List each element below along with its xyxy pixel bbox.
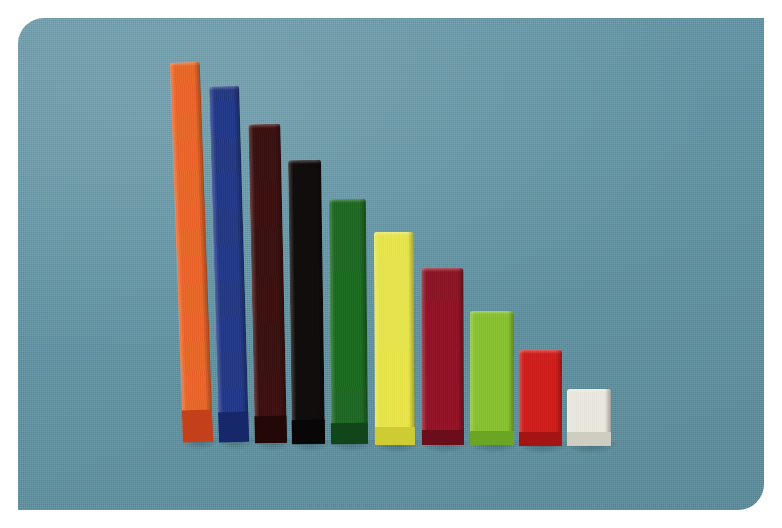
- dark-green-rod: [329, 199, 368, 444]
- rod-face: [421, 268, 464, 445]
- rod-face: [248, 124, 287, 444]
- brown-rod: [248, 124, 287, 444]
- photo-print-surface: [18, 18, 764, 510]
- cuisenaire-rods-group: [18, 18, 764, 510]
- rod-face: [374, 232, 415, 445]
- dark-red-rod: [421, 268, 464, 445]
- photograph-frame: [0, 0, 782, 528]
- rod-face: [209, 86, 249, 443]
- rod-face: [519, 350, 562, 446]
- black-rod: [288, 160, 325, 444]
- red-rod: [519, 350, 562, 446]
- rod-face: [329, 199, 368, 444]
- yellow-rod: [374, 232, 415, 445]
- light-green-rod: [470, 311, 514, 445]
- rod-face: [567, 389, 611, 446]
- rod-face: [288, 160, 325, 444]
- blue-rod: [209, 86, 249, 443]
- rod-face: [470, 311, 514, 445]
- rod-face: [170, 62, 213, 443]
- orange-rod: [170, 62, 213, 443]
- white-cube: [567, 389, 611, 446]
